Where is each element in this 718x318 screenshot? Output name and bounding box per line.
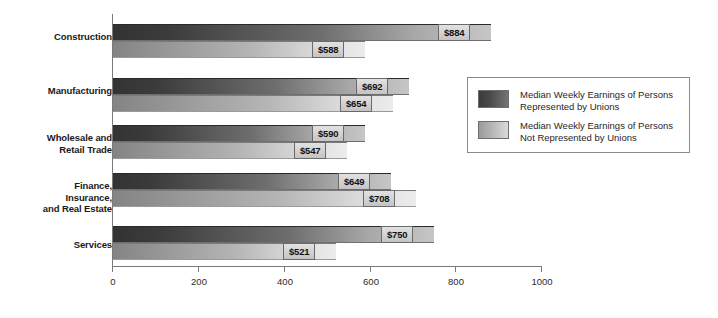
x-tick-label-600: 600: [363, 276, 379, 287]
x-tick-800: [455, 266, 456, 272]
category-label-finance-insurance-real-estate: Finance, Insurance, and Real Estate: [7, 180, 112, 215]
value-label-services-union: $750: [381, 226, 413, 243]
category-label-manufacturing: Manufacturing: [7, 85, 112, 97]
x-tick-label-400: 400: [277, 276, 293, 287]
value-label-services-nonunion: $521: [283, 243, 315, 260]
value-label-manufacturing-nonunion: $654: [340, 95, 372, 112]
value-label-manufacturing-union: $692: [356, 78, 388, 95]
x-tick-label-800: 800: [448, 276, 464, 287]
legend-label-union: Median Weekly Earnings of Persons Repres…: [520, 89, 673, 113]
value-label-wholesale-nonunion: $547: [294, 142, 326, 159]
x-tick-0: [112, 266, 113, 272]
category-label-services: Services: [7, 239, 112, 251]
value-label-finance-union: $649: [338, 173, 370, 190]
x-tick-label-200: 200: [191, 276, 207, 287]
x-tick-label-1000: 1000: [531, 276, 552, 287]
x-tick-1000: [541, 266, 542, 272]
legend-item-nonunion: Median Weekly Earnings of Persons Not Re…: [478, 120, 673, 144]
x-tick-400: [284, 266, 285, 272]
category-label-wholesale-retail-trade: Wholesale and Retail Trade: [7, 132, 112, 155]
x-tick-200: [198, 266, 199, 272]
legend-label-nonunion: Median Weekly Earnings of Persons Not Re…: [520, 120, 673, 144]
legend-item-union: Median Weekly Earnings of Persons Repres…: [478, 89, 673, 113]
value-label-wholesale-union: $590: [312, 125, 344, 142]
category-label-construction: Construction: [7, 31, 112, 43]
chart-legend: Median Weekly Earnings of Persons Repres…: [467, 77, 690, 153]
x-axis-line: [112, 266, 542, 267]
value-label-finance-nonunion: $708: [363, 190, 395, 207]
x-tick-label-0: 0: [110, 276, 115, 287]
value-label-construction-nonunion: $588: [312, 41, 344, 58]
legend-swatch-nonunion: [478, 121, 509, 139]
x-tick-600: [370, 266, 371, 272]
legend-swatch-union: [478, 90, 509, 108]
bar-construction-union: [113, 24, 491, 41]
bar-chart: Construction Manufacturing Wholesale and…: [0, 0, 718, 318]
value-label-construction-union: $884: [438, 24, 470, 41]
